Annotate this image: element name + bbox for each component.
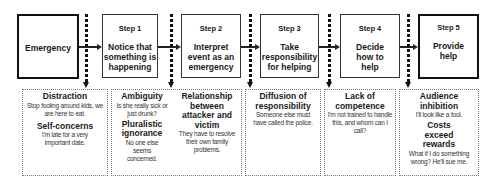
barrier-example: They have to resolve their own family pr… [173,130,241,154]
barrier-title: Pluralistic ignorance [112,120,172,139]
connector-line [79,46,97,48]
barrier-example: I'm not trained to handle this, and whom… [325,111,395,135]
arrow-right-icon [413,44,418,50]
barrier-box-2: Ambiguity Is she really sick or just dru… [111,89,242,176]
barrier-title: Audience inhibition [400,92,478,111]
barrier-title: Relationship between attacker and victim [173,92,241,130]
emergency-label: Emergency [25,43,71,53]
emergency-box: Emergency [17,14,79,79]
dotted-arrow-line [85,14,88,82]
arrow-right-icon [255,44,260,50]
arrow-down-icon [83,82,89,88]
arrow-down-icon [405,82,411,88]
barrier-example: No one else seems concerned. [112,139,172,163]
barrier-column-right: Relationship between attacker and victim… [173,92,241,154]
step-1-label: Step 1 [119,24,142,33]
arrow-down-icon [326,82,332,88]
barrier-example: I'll look like a fool. [416,111,462,119]
arrow-right-icon [176,44,181,50]
barrier-box-4: Lack of competence I'm not trained to ha… [324,89,396,176]
barrier-example: Is she really sick or just drunk? [112,102,172,118]
barrier-column-left: Ambiguity Is she really sick or just dru… [112,92,172,163]
step-5-text: Provide help [420,41,477,61]
barrier-box-5: Audience inhibition I'll look like a foo… [399,89,479,176]
step-5-label: Step 5 [437,23,460,32]
barrier-box-1: Distraction Stop fooling around kids, we… [22,89,108,176]
arrow-down-icon [168,82,174,88]
step-1-box: Step 1 Notice that something is happenin… [102,14,158,78]
step-2-label: Step 2 [200,24,223,33]
barrier-title: Ambiguity [121,92,163,102]
step-4-label: Step 4 [359,24,382,33]
connector-line [158,46,176,48]
step-1-text: Notice that something is happening [103,42,157,72]
arrow-right-icon [335,44,340,50]
step-2-text: Interpret event as an emergency [182,42,240,72]
step-3-label: Step 3 [278,24,301,33]
barrier-title: Lack of competence [325,92,395,111]
dotted-arrow-line [328,14,331,82]
barrier-title: Distraction [43,92,87,102]
barrier-title: Diffusion of responsibility [246,92,320,111]
step-4-box: Step 4 Decide how to help [340,14,400,78]
barrier-example: Someone else must have called the police… [246,111,320,127]
arrow-down-icon [247,82,253,88]
step-4-text: Decide how to help [341,42,399,72]
dotted-arrow-line [407,14,410,82]
barrier-box-3: Diffusion of responsibility Someone else… [245,89,321,176]
step-3-box: Step 3 Take responsibility for helping [260,14,319,78]
dotted-arrow-line [170,14,173,82]
barrier-title: Self-concerns [37,122,93,132]
barrier-title: Costs exceed rewards [400,121,478,150]
connector-line [241,46,255,48]
dotted-arrow-line [249,14,252,82]
step-3-text: Take responsibility for helping [261,42,318,72]
step-2-box: Step 2 Interpret event as an emergency [181,14,241,78]
barrier-example: Stop fooling around kids, we are here to… [23,102,107,118]
barrier-example: I'm late for a very important date. [23,131,107,147]
step-5-box: Step 5 Provide help [418,14,479,79]
connector-line [319,46,335,48]
arrow-right-icon [97,44,102,50]
barrier-example: What if I do something wrong? He'll sue … [400,150,478,166]
